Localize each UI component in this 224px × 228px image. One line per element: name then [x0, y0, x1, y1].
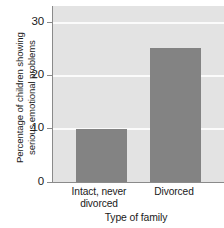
x-axis-line: [52, 182, 224, 183]
x-category-label-line-1: Divorced: [125, 186, 223, 198]
x-category-label-divorced: Divorced: [125, 186, 223, 198]
y-tick-mark-30: [47, 22, 53, 23]
bar-chart-figure: 30 20 10 0 Percentage of children showin…: [0, 0, 224, 228]
plot-area: [53, 6, 224, 182]
bar-intact-never-divorced: [76, 129, 127, 182]
y-axis-title-line-2: serious emotional problems: [26, 8, 38, 188]
gridline-30: [53, 22, 224, 24]
x-category-label-line-2: divorced: [50, 198, 148, 210]
y-axis-title: Percentage of children showing serious e…: [14, 8, 37, 188]
bar-divorced: [150, 48, 201, 182]
y-tick-mark-20: [47, 75, 53, 76]
y-axis-line: [52, 6, 53, 183]
x-axis-title: Type of family: [48, 212, 224, 224]
y-tick-mark-0: [47, 182, 53, 183]
y-tick-mark-10: [47, 128, 53, 129]
y-axis-title-line-1: Percentage of children showing: [14, 8, 26, 188]
